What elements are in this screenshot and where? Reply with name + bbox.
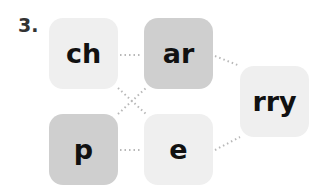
tile-ch-label: ch — [66, 38, 101, 69]
connector-ar-rry — [215, 56, 240, 66]
tile-e-label: e — [169, 134, 187, 165]
tile-rry[interactable]: rry — [240, 66, 309, 137]
tile-ar-label: ar — [163, 38, 195, 69]
tile-ar[interactable]: ar — [144, 18, 213, 89]
tile-e[interactable]: e — [144, 114, 213, 185]
tile-rry-label: rry — [252, 86, 296, 117]
tile-ch[interactable]: ch — [49, 18, 118, 89]
tile-p-label: p — [74, 134, 93, 165]
connector-e-rry — [215, 137, 240, 150]
tile-p[interactable]: p — [49, 114, 118, 185]
